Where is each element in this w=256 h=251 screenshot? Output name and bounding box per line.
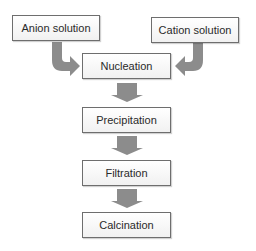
calcination-label: Calcination xyxy=(99,219,153,231)
nucleation-box: Nucleation xyxy=(82,53,171,79)
precipitation-label: Precipitation xyxy=(96,114,157,126)
cation-solution-label: Cation solution xyxy=(159,24,232,36)
cation-solution-box: Cation solution xyxy=(151,17,239,43)
down-arrow-3-icon xyxy=(111,189,143,208)
anion-solution-box: Anion solution xyxy=(12,15,100,41)
down-arrow-1-icon xyxy=(111,83,143,102)
curved-arrow-right-icon xyxy=(175,43,203,76)
curved-arrow-left-icon xyxy=(52,42,80,76)
filtration-label: Filtration xyxy=(105,167,147,179)
nucleation-label: Nucleation xyxy=(101,60,153,72)
precipitation-box: Precipitation xyxy=(82,107,171,133)
calcination-box: Calcination xyxy=(82,212,171,238)
anion-solution-label: Anion solution xyxy=(21,22,90,34)
filtration-box: Filtration xyxy=(82,160,171,186)
down-arrow-2-icon xyxy=(111,136,143,155)
